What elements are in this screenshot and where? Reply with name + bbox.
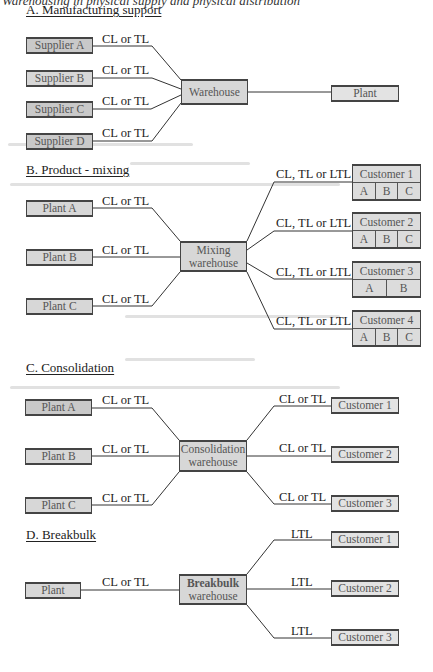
link-label-supplier-d: CL or TL	[102, 126, 149, 141]
c-customer-1-box: Customer 1	[331, 397, 399, 414]
link-d-customer-3	[247, 605, 331, 638]
b-customer-4-product-a: A	[353, 329, 375, 345]
link-label-c-plant-b: CL or TL	[102, 442, 149, 457]
b-customer-1-product-c: C	[397, 183, 420, 199]
link-label-d-customer-3: LTL	[291, 624, 313, 639]
consolidation-warehouse-line2: warehouse	[188, 456, 237, 469]
b-customer-2-box: Customer 2 A B C	[352, 212, 421, 249]
b-customer-3-product-a: A	[353, 280, 386, 296]
breakbulk-warehouse-box: Breakbulk warehouse	[179, 574, 247, 605]
link-label-c-customer-1: CL or TL	[279, 392, 326, 407]
mixing-warehouse-box: Mixing warehouse	[180, 241, 247, 272]
b-customer-2-product-c: C	[397, 231, 420, 247]
link-label-b-customer-1: CL, TL or LTL	[276, 167, 351, 182]
section-b-title: B. Product - mixing	[26, 162, 129, 178]
b-customer-3-name: Customer 3	[353, 263, 420, 280]
mixing-warehouse-line2: warehouse	[189, 257, 238, 270]
link-c-customer-1	[247, 406, 331, 440]
d-plant-box: Plant	[25, 582, 81, 599]
d-customer-3-box: Customer 3	[331, 629, 399, 646]
mixing-warehouse-line1: Mixing	[197, 244, 231, 257]
link-label-d-customer-1: LTL	[291, 527, 313, 542]
link-label-supplier-a: CL or TL	[102, 32, 149, 47]
link-label-b-customer-2: CL, TL or LTL	[276, 216, 351, 231]
b-customer-3-product-b: B	[386, 280, 420, 296]
link-label-b-plant-c: CL or TL	[102, 292, 149, 307]
b-customer-4-box: Customer 4 A B C	[352, 310, 421, 347]
b-customer-2-name: Customer 2	[353, 214, 420, 231]
link-label-c-customer-3: CL or TL	[279, 490, 326, 505]
breakbulk-warehouse-line2: warehouse	[188, 590, 237, 603]
c-plant-a-box: Plant A	[25, 399, 92, 416]
section-a-title: A. Manufacturing support	[26, 2, 161, 18]
link-label-b-customer-3: CL, TL or LTL	[276, 265, 351, 280]
supplier-c-box: Supplier C	[26, 101, 93, 118]
link-label-c-plant-c: CL or TL	[102, 491, 149, 506]
b-customer-4-product-c: C	[397, 329, 420, 345]
link-c-plant-a	[92, 408, 179, 440]
plant-box: Plant	[331, 85, 399, 102]
breakbulk-warehouse-line1: Breakbulk	[187, 577, 239, 590]
link-label-b-plant-b: CL or TL	[102, 243, 149, 258]
b-customer-1-product-b: B	[375, 183, 398, 199]
b-customer-1-product-a: A	[353, 183, 375, 199]
c-customer-3-box: Customer 3	[331, 495, 399, 512]
link-b-plant-a	[93, 208, 180, 241]
link-label-supplier-c: CL or TL	[102, 94, 149, 109]
link-label-c-customer-2: CL or TL	[279, 441, 326, 456]
warehouse-box: Warehouse	[181, 79, 248, 105]
consolidation-warehouse-box: Consolidation warehouse	[179, 440, 247, 472]
supplier-d-box: Supplier D	[26, 133, 93, 150]
consolidation-warehouse-line1: Consolidation	[181, 443, 246, 456]
c-plant-c-box: Plant C	[25, 497, 92, 514]
link-d-customer-1	[247, 540, 331, 574]
b-customer-4-product-b: B	[375, 329, 398, 345]
d-customer-2-box: Customer 2	[331, 580, 399, 597]
link-b-customer-1	[247, 182, 352, 241]
link-label-c-plant-a: CL or TL	[102, 393, 149, 408]
b-customer-4-name: Customer 4	[353, 312, 420, 329]
supplier-b-box: Supplier B	[26, 70, 93, 87]
link-label-d-plant: CL or TL	[102, 575, 149, 590]
section-d-title: D. Breakbulk	[26, 527, 96, 543]
b-plant-b-box: Plant B	[26, 249, 93, 266]
link-b-customer-2	[247, 231, 352, 250]
b-customer-3-box: Customer 3 A B	[352, 261, 421, 298]
b-plant-a-box: Plant A	[26, 200, 93, 217]
b-customer-2-product-b: B	[375, 231, 398, 247]
b-customer-2-product-a: A	[353, 231, 375, 247]
d-customer-1-box: Customer 1	[331, 531, 399, 548]
c-customer-2-box: Customer 2	[331, 446, 399, 463]
c-plant-b-box: Plant B	[25, 448, 92, 465]
b-plant-c-box: Plant C	[26, 298, 93, 315]
b-customer-1-name: Customer 1	[353, 166, 420, 183]
supplier-a-box: Supplier A	[26, 37, 93, 54]
section-c-title: C. Consolidation	[26, 360, 114, 376]
link-supplier-b	[93, 78, 181, 89]
link-label-d-customer-2: LTL	[291, 575, 313, 590]
link-label-b-customer-4: CL, TL or LTL	[276, 314, 351, 329]
b-customer-1-box: Customer 1 A B C	[352, 164, 421, 201]
link-label-supplier-b: CL or TL	[102, 63, 149, 78]
link-label-b-plant-a: CL or TL	[102, 194, 149, 209]
